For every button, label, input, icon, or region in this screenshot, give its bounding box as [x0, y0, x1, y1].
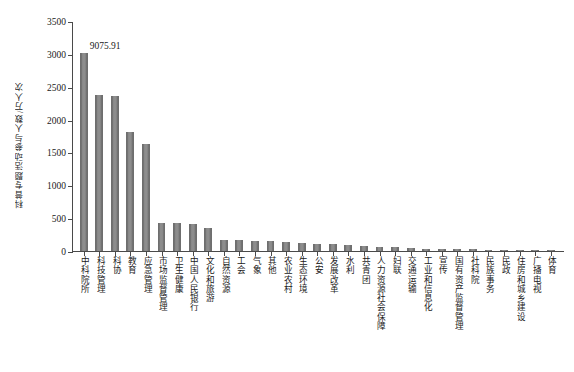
x-axis-category-labels: 中科院所科技管理科协教育应急管理市场监督管理卫生健康中国人民银行文化和旅游自然资…: [72, 256, 564, 368]
x-category-label: 发展改革: [328, 256, 337, 293]
bar: [531, 250, 539, 251]
y-tick-label: 2000: [47, 116, 66, 126]
plot-area: 0500100015002000250030003500 9075.91: [72, 22, 564, 252]
y-tick-mark: [68, 252, 73, 253]
bar: [111, 96, 119, 251]
x-category-label: 中科院所: [79, 256, 88, 293]
bar: [189, 224, 197, 251]
y-axis-title: 科普专题活动参与人数/万人次: [10, 40, 30, 250]
bar: [516, 250, 524, 251]
bar: [173, 223, 181, 251]
bar: [485, 250, 493, 251]
bar: [80, 53, 88, 251]
y-tick-label: 1500: [47, 148, 66, 158]
x-category-label: 体育: [546, 256, 555, 275]
bar: [126, 132, 134, 251]
x-category-label: 生态环境: [297, 256, 306, 293]
x-category-label: 宣传: [437, 256, 446, 275]
bar: [251, 241, 259, 251]
bar-chart: 科普专题活动参与人数/万人次 0500100015002000250030003…: [0, 0, 574, 372]
y-tick-label: 3000: [47, 50, 66, 60]
bar: [391, 247, 399, 251]
bar: [469, 249, 477, 251]
x-category-label: 其他: [266, 256, 275, 275]
x-category-label: 文化和旅游: [204, 256, 213, 303]
bar: [376, 247, 384, 251]
bar: [422, 249, 430, 251]
x-category-label: 市场监督管理: [157, 256, 166, 312]
y-tick-label: 1000: [47, 181, 66, 191]
y-tick-mark: [68, 22, 73, 23]
x-category-label: 自然资源: [219, 256, 228, 293]
x-category-label: 住房和城乡建设: [515, 256, 524, 321]
y-tick-mark: [68, 88, 73, 89]
bar: [220, 240, 228, 252]
bar: [235, 240, 243, 251]
x-category-label: 公安: [313, 256, 322, 275]
x-category-label: 科技管理: [95, 256, 104, 293]
x-category-label: 水利: [344, 256, 353, 275]
y-tick-label: 3500: [47, 17, 66, 27]
x-category-label: 共青团: [359, 256, 368, 284]
x-category-label: 农业农村: [281, 256, 290, 293]
bar: [95, 95, 103, 251]
bar: [313, 244, 321, 251]
bar: [282, 242, 290, 251]
y-tick-label: 0: [61, 247, 66, 257]
x-category-label: 中国人民银行: [188, 256, 197, 312]
x-category-label: 交通运输: [406, 256, 415, 293]
y-tick-mark: [68, 153, 73, 154]
x-category-label: 工会: [235, 256, 244, 275]
bar: [158, 223, 166, 251]
x-category-label: 民族事务: [484, 256, 493, 293]
bar: [344, 245, 352, 251]
y-tick-label: 2500: [47, 83, 66, 93]
y-tick-label: 500: [52, 214, 66, 224]
x-category-label: 民政: [499, 256, 508, 275]
x-category-label: 国有资产监督管理: [453, 256, 462, 330]
bar: [298, 243, 306, 251]
y-tick-mark: [68, 55, 73, 56]
bar: [547, 250, 555, 251]
bar: [453, 249, 461, 251]
bar: [142, 144, 150, 251]
bar: [438, 249, 446, 251]
x-category-label: 科协: [110, 256, 119, 275]
bar: [407, 248, 415, 251]
data-label-first-bar: 9075.91: [90, 41, 121, 51]
x-category-label: 人力资源社会保障: [375, 256, 384, 330]
x-category-label: 教育: [126, 256, 135, 275]
bar: [329, 244, 337, 251]
x-category-label: 气象: [250, 256, 259, 275]
y-tick-mark: [68, 121, 73, 122]
x-category-label: 社科院: [468, 256, 477, 284]
bar: [267, 241, 275, 251]
bar: [204, 228, 212, 251]
x-category-label: 妇联: [390, 256, 399, 275]
x-category-label: 广播电视: [530, 256, 539, 293]
y-tick-mark: [68, 186, 73, 187]
x-category-label: 工业和信息化: [422, 256, 431, 312]
x-category-label: 应急管理: [141, 256, 150, 293]
x-category-label: 卫生健康: [172, 256, 181, 293]
y-tick-mark: [68, 219, 73, 220]
bar: [500, 250, 508, 251]
bar: [360, 246, 368, 251]
